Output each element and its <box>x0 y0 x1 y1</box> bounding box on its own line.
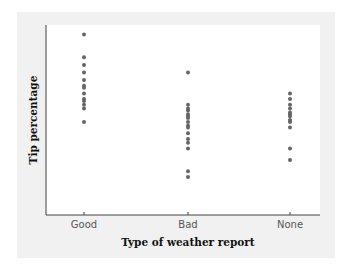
data-point-none-0 <box>288 91 292 95</box>
data-point-bad-7 <box>186 120 190 124</box>
data-point-bad-0 <box>186 71 190 75</box>
data-point-good-10 <box>82 103 86 107</box>
data-point-none-6 <box>288 114 292 118</box>
data-point-none-9 <box>288 126 292 130</box>
data-point-none-11 <box>288 158 292 162</box>
x-tick-label-good: Good <box>71 219 97 230</box>
data-point-good-4 <box>82 78 86 82</box>
data-point-none-2 <box>288 103 292 107</box>
data-point-bad-14 <box>186 169 190 173</box>
data-point-good-12 <box>82 120 86 124</box>
data-point-good-2 <box>82 63 86 67</box>
x-axis-title: Type of weather report <box>121 236 255 248</box>
data-point-none-1 <box>288 97 292 101</box>
data-point-none-8 <box>288 120 292 124</box>
data-point-good-9 <box>82 99 86 103</box>
data-point-good-0 <box>82 33 86 37</box>
data-point-bad-1 <box>186 103 190 107</box>
data-point-good-7 <box>82 91 86 95</box>
data-point-good-6 <box>82 86 86 90</box>
y-axis-title: Tip percentage <box>27 75 39 164</box>
plot-area <box>46 25 320 215</box>
data-point-bad-6 <box>186 116 190 120</box>
scatter-chart: GoodBadNone Type of weather report Tip p… <box>0 0 350 270</box>
data-point-none-10 <box>288 147 292 151</box>
data-point-good-11 <box>82 107 86 111</box>
data-point-bad-10 <box>186 131 190 135</box>
data-point-good-3 <box>82 71 86 75</box>
x-tick-label-bad: Bad <box>178 219 197 230</box>
data-point-none-3 <box>288 107 292 111</box>
data-point-bad-15 <box>186 175 190 179</box>
data-point-bad-11 <box>186 137 190 141</box>
x-tick-label-none: None <box>277 219 303 230</box>
data-point-bad-9 <box>186 126 190 130</box>
data-point-bad-13 <box>186 147 190 151</box>
data-point-bad-12 <box>186 141 190 145</box>
data-point-good-1 <box>82 55 86 59</box>
data-point-bad-3 <box>186 109 190 113</box>
